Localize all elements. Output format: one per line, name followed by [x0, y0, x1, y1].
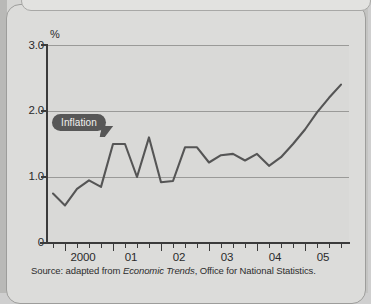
x-tick — [233, 244, 234, 248]
x-tick — [185, 244, 186, 248]
x-tick — [149, 244, 150, 248]
x-tick — [281, 244, 282, 248]
x-tick-label-2000: 2000 — [63, 251, 103, 263]
inflation-callout-label: Inflation — [52, 114, 106, 131]
x-tick — [317, 244, 318, 248]
x-axis-line — [40, 242, 350, 244]
x-tick-label-01: 01 — [111, 251, 151, 263]
x-tick — [89, 244, 90, 248]
gridline-2 — [47, 111, 349, 112]
x-tick — [341, 244, 342, 248]
source-publication: Economic Trends — [123, 265, 195, 276]
x-tick — [269, 244, 270, 248]
source-note: Source: adapted from Economic Trends, Of… — [31, 265, 316, 276]
x-tick — [221, 244, 222, 248]
y-tick-mark-1 — [41, 176, 47, 178]
source-suffix: , Office for National Statistics. — [195, 265, 316, 276]
x-tick — [113, 244, 114, 251]
x-tick — [137, 244, 138, 248]
y-axis-unit-label: % — [50, 28, 60, 40]
source-prefix: Source: adapted from — [31, 265, 123, 276]
gridline-3 — [47, 45, 349, 46]
x-tick — [101, 244, 102, 248]
x-tick — [173, 244, 174, 248]
x-tick — [53, 244, 54, 248]
x-tick — [305, 244, 306, 251]
x-tick — [125, 244, 126, 248]
x-tick — [329, 244, 330, 248]
y-tick-mark-2 — [41, 110, 47, 112]
gridline-1 — [47, 177, 349, 178]
y-tick-mark-3 — [41, 44, 47, 46]
plot-area — [47, 45, 349, 243]
x-tick-label-05: 05 — [303, 251, 343, 263]
x-tick — [197, 244, 198, 248]
x-tick-label-03: 03 — [207, 251, 247, 263]
x-tick — [65, 244, 66, 251]
y-tick-mark-0 — [41, 242, 47, 244]
x-tick — [293, 244, 294, 248]
x-tick — [77, 244, 78, 248]
y-tick-label-3: 3.0 — [14, 39, 44, 51]
y-tick-label-2: 2.0 — [14, 104, 44, 116]
x-tick — [209, 244, 210, 251]
x-tick — [161, 244, 162, 251]
x-tick — [245, 244, 246, 248]
x-tick-label-02: 02 — [159, 251, 199, 263]
y-axis-line — [46, 44, 48, 244]
x-tick — [257, 244, 258, 251]
y-tick-label-0: 0 — [14, 236, 44, 248]
y-tick-label-1: 1.0 — [14, 170, 44, 182]
x-tick-label-04: 04 — [255, 251, 295, 263]
